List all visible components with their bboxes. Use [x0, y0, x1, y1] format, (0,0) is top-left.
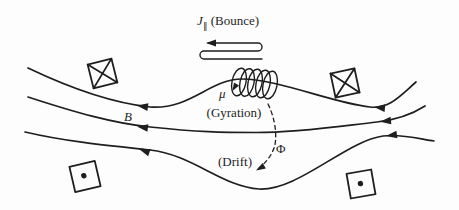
bounce-arrow	[206, 40, 216, 47]
drift-arrow	[254, 163, 266, 173]
dot	[81, 173, 87, 179]
coil-loop-2	[237, 67, 257, 97]
bounce-subscript: ∥	[203, 21, 208, 31]
coil-loop-1	[229, 67, 249, 97]
drift-caption: (Drift)	[218, 154, 252, 169]
coil-section-top-right	[330, 68, 359, 97]
field-symbol: B	[124, 109, 132, 124]
field-arrow-bottom-left	[138, 145, 151, 156]
field-arrow-middle-right	[380, 117, 392, 126]
coil-section-bottom-right	[347, 170, 376, 199]
figure-canvas: J∥(Bounce) μ (Gyration) B Φ (Drift)	[0, 0, 459, 210]
gyration-caption: (Gyration)	[207, 105, 262, 120]
field-lines	[25, 68, 434, 189]
drift-symbol: Φ	[276, 141, 286, 156]
field-arrow-middle-left	[136, 123, 148, 132]
bounce-label: J∥(Bounce)	[197, 13, 259, 31]
bounce-trajectory	[200, 40, 262, 60]
field-arrow-top-right	[374, 103, 386, 112]
coil-section-bottom-left	[69, 161, 100, 192]
coil-section-top-left	[88, 59, 118, 89]
field-arrow-top-left	[136, 102, 148, 111]
gyration-symbol: μ	[218, 86, 226, 101]
adiabatic-invariants-diagram: J∥(Bounce) μ (Gyration) B Φ (Drift)	[0, 0, 459, 210]
dot	[357, 180, 363, 186]
bounce-path	[200, 43, 262, 59]
bounce-caption: (Bounce)	[211, 13, 259, 28]
